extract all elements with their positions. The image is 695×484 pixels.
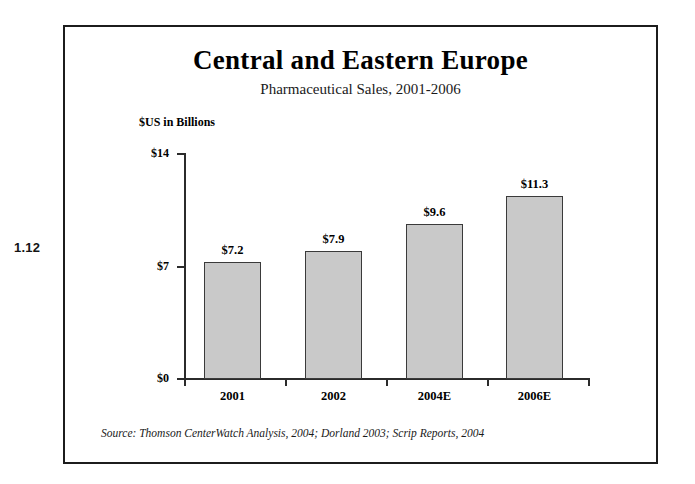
plot-area: $14 $7 $0 $7.2 2001 $7.9 2002 $9.6 2004E… xyxy=(65,27,660,466)
x-axis-category-label: 2001 xyxy=(199,389,266,404)
x-axis-tick xyxy=(386,379,388,386)
x-axis-tick xyxy=(285,379,287,386)
bar xyxy=(406,224,463,379)
x-axis-category-label: 2002 xyxy=(300,389,367,404)
y-axis-tick xyxy=(177,266,185,268)
y-axis-tick-label: $0 xyxy=(109,371,169,386)
x-axis-category-label: 2006E xyxy=(501,389,568,404)
y-axis-tick-label: $14 xyxy=(109,146,169,161)
bar-value-label: $9.6 xyxy=(406,205,463,220)
bar-value-label: $7.9 xyxy=(305,232,362,247)
bar xyxy=(305,251,362,379)
x-axis-tick xyxy=(487,379,489,386)
y-axis-tick xyxy=(177,153,185,155)
figure-frame: Central and Eastern Europe Pharmaceutica… xyxy=(63,25,658,464)
x-axis-tick xyxy=(184,379,186,386)
x-axis-tick xyxy=(588,379,590,386)
y-axis-tick-label: $7 xyxy=(109,259,169,274)
x-axis-category-label: 2004E xyxy=(401,389,468,404)
figure-number: 1.12 xyxy=(14,240,40,255)
bar-value-label: $11.3 xyxy=(506,177,563,192)
bar xyxy=(204,262,261,379)
source-note: Source: Thomson CenterWatch Analysis, 20… xyxy=(101,427,484,439)
bar-value-label: $7.2 xyxy=(204,243,261,258)
bar xyxy=(506,196,563,379)
